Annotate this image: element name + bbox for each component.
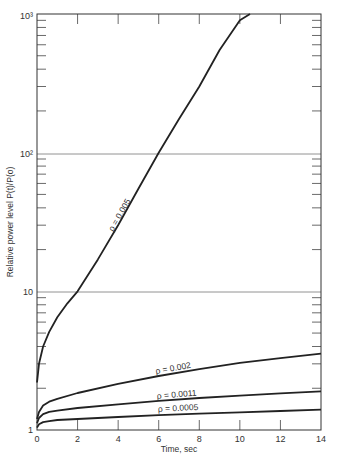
x-tick-label: 14 <box>316 434 326 444</box>
curve-label-rho-0.0005: ρ = 0.0005 <box>158 402 199 414</box>
x-tick-label: 8 <box>197 434 202 444</box>
x-tick-label: 12 <box>275 434 285 444</box>
y-tick-label-10: 10 <box>23 287 33 297</box>
x-tick-labels: 02468101214 <box>34 434 326 444</box>
x-tick-label: 6 <box>156 434 161 444</box>
gridlines <box>37 154 321 292</box>
y-tick-label-1: 1 <box>28 425 33 435</box>
x-axis-label: Time, sec <box>161 444 198 454</box>
curve <box>37 14 250 383</box>
x-tick-label: 10 <box>235 434 245 444</box>
y-minor-ticks <box>37 20 321 388</box>
power-level-chart: 1 10 10² 10³ 02468101214 Time, sec Relat… <box>0 0 359 457</box>
x-tick-label: 4 <box>116 434 121 444</box>
x-tick-label: 2 <box>75 434 80 444</box>
x-tick-label: 0 <box>34 434 39 444</box>
y-axis-label: Relative power level P(t)/P(o) <box>5 167 15 278</box>
y-tick-label-100: 10² <box>20 149 33 159</box>
curve-label-rho-0.005: ρ = 0.005 <box>106 197 133 233</box>
y-tick-label-1000: 10³ <box>20 11 33 21</box>
